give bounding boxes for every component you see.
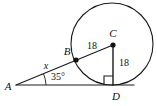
geometry-figure-canvas: A B C D 18 18 x 35° bbox=[0, 0, 157, 106]
right-angle-marker bbox=[104, 76, 113, 85]
point-label-c: C bbox=[109, 27, 117, 39]
angle-label-a: 35° bbox=[51, 71, 65, 82]
length-label-cd: 18 bbox=[119, 57, 129, 68]
point-dot-b bbox=[73, 57, 78, 62]
point-label-a: A bbox=[4, 80, 12, 92]
angle-arc-a bbox=[43, 74, 46, 85]
geometry-figure: A B C D 18 18 x 35° bbox=[0, 0, 157, 106]
point-label-d: D bbox=[111, 90, 120, 102]
length-label-ab: x bbox=[43, 60, 49, 71]
point-label-b: B bbox=[64, 45, 71, 57]
length-label-bc: 18 bbox=[87, 40, 97, 51]
point-dot-c bbox=[110, 42, 115, 47]
